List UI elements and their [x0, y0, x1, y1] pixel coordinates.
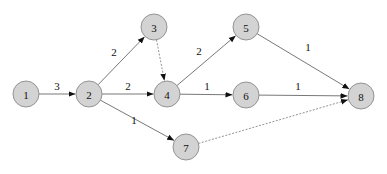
node-label: 3: [151, 22, 157, 34]
edge-weight-label: 1: [131, 114, 137, 126]
node-5: 5: [233, 14, 259, 40]
edge-3-to-4: [157, 40, 165, 81]
graph-canvas: 32212111 12345678: [0, 0, 387, 174]
edge-weight-label: 2: [111, 46, 117, 58]
node-label: 2: [86, 89, 92, 101]
edge-weight-label: 2: [196, 45, 202, 57]
node-4: 4: [154, 81, 180, 107]
edge-4-to-5: [177, 36, 236, 86]
node-8: 8: [348, 83, 374, 109]
node-label: 1: [23, 89, 29, 101]
edge-weight-label: 1: [295, 80, 301, 92]
edge-weight-label: 2: [125, 80, 131, 92]
node-label: 5: [243, 22, 249, 34]
node-label: 7: [183, 142, 189, 154]
directed-graph: 32212111 12345678: [0, 0, 387, 174]
node-label: 8: [358, 91, 364, 103]
node-label: 6: [243, 90, 249, 102]
edge-4-to-6: [180, 94, 233, 95]
node-6: 6: [233, 82, 259, 108]
node-3: 3: [141, 14, 167, 40]
edge-weight-label: 1: [204, 80, 210, 92]
edge-weight-label: 3: [54, 80, 60, 92]
edge-weight-label: 1: [305, 41, 311, 53]
edge-5-to-8: [257, 34, 349, 89]
edge-6-to-8: [259, 95, 348, 96]
nodes-layer: 12345678: [13, 14, 374, 160]
edge-2-to-3: [98, 37, 145, 85]
node-1: 1: [13, 81, 39, 107]
node-7: 7: [173, 134, 199, 160]
edge-7-to-8: [199, 100, 349, 144]
node-2: 2: [76, 81, 102, 107]
node-label: 4: [164, 89, 170, 101]
